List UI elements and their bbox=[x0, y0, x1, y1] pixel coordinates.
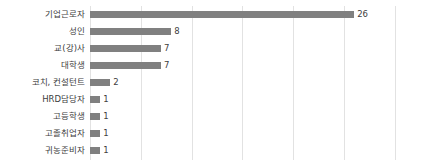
bar-row: 고졸취업자 1 bbox=[90, 125, 410, 142]
value-label: 2 bbox=[113, 74, 118, 91]
category-label: 대학생 bbox=[61, 57, 85, 74]
category-label: 고등학생 bbox=[53, 108, 85, 125]
bar bbox=[90, 113, 100, 120]
bar bbox=[90, 62, 161, 69]
bar-row: 대학생 7 bbox=[90, 57, 410, 74]
category-label: 성인 bbox=[69, 23, 85, 40]
bar-row: 코치, 컨설턴트 2 bbox=[90, 74, 410, 91]
bar bbox=[90, 96, 100, 103]
bar-row: 성인 8 bbox=[90, 23, 410, 40]
bar-row: 귀농준비자 1 bbox=[90, 142, 410, 159]
bar-row: HRD담당자 1 bbox=[90, 91, 410, 108]
bar-row: 교(강)사 7 bbox=[90, 40, 410, 57]
bar bbox=[90, 11, 354, 18]
value-label: 8 bbox=[174, 23, 179, 40]
plot-area: 기업근로자 26 성인 8 교(강)사 7 대학생 7 코치, 컨설턴트 2 H… bbox=[90, 6, 410, 160]
bar bbox=[90, 147, 100, 154]
bar bbox=[90, 130, 100, 137]
value-label: 1 bbox=[103, 91, 108, 108]
category-label: HRD담당자 bbox=[42, 91, 85, 108]
bar-row: 기업근로자 26 bbox=[90, 6, 410, 23]
category-label: 귀농준비자 bbox=[45, 142, 85, 159]
value-label: 7 bbox=[164, 57, 169, 74]
value-label: 1 bbox=[103, 142, 108, 159]
category-label: 교(강)사 bbox=[54, 40, 85, 57]
value-label: 1 bbox=[103, 108, 108, 125]
value-label: 7 bbox=[164, 40, 169, 57]
bar-row: 고등학생 1 bbox=[90, 108, 410, 125]
category-label: 고졸취업자 bbox=[45, 125, 85, 142]
bar bbox=[90, 28, 171, 35]
category-label: 코치, 컨설턴트 bbox=[32, 74, 85, 91]
category-label: 기업근로자 bbox=[45, 6, 85, 23]
bar-chart: 기업근로자 26 성인 8 교(강)사 7 대학생 7 코치, 컨설턴트 2 H… bbox=[0, 0, 424, 166]
value-label: 26 bbox=[357, 6, 368, 23]
value-label: 1 bbox=[103, 125, 108, 142]
bar bbox=[90, 45, 161, 52]
bar bbox=[90, 79, 110, 86]
